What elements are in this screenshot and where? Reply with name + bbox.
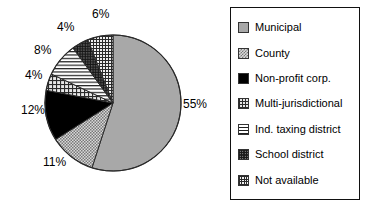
legend-item-county[interactable]: County (238, 40, 359, 65)
slice-label-non-profit-corp: 12% (21, 103, 45, 117)
legend-swatch-non-profit-corp (238, 73, 249, 84)
legend-swatch-not-available (238, 175, 249, 186)
legend-label-school-district: School district (255, 149, 323, 160)
legend-item-ind-taxing-district[interactable]: Ind. taxing district (238, 117, 359, 142)
pie-slices (45, 35, 181, 171)
pie-chart-area: 55% 11% 12% 4% 8% 4% 6% (0, 0, 228, 207)
legend-label-multi-jurisdictional: Multi-jurisdictional (255, 98, 342, 109)
legend-item-school-district[interactable]: School district (238, 142, 359, 167)
legend-label-not-available: Not available (255, 175, 319, 186)
legend-item-not-available[interactable]: Not available (238, 167, 359, 192)
slice-label-county: 11% (43, 155, 66, 169)
legend-swatch-county (238, 48, 249, 59)
slice-label-municipal: 55% (183, 97, 207, 111)
legend-box: Municipal County Non-profit corp. Multi-… (230, 7, 360, 200)
legend-item-multi-jurisdictional[interactable]: Multi-jurisdictional (238, 91, 359, 116)
legend-swatch-school-district (238, 149, 249, 160)
legend-item-non-profit-corp[interactable]: Non-profit corp. (238, 66, 359, 91)
legend-label-municipal: Municipal (255, 22, 301, 33)
slice-label-school-district: 4% (57, 20, 74, 34)
chart-root: 55% 11% 12% 4% 8% 4% 6% Municipal County… (0, 0, 367, 207)
legend-label-non-profit-corp: Non-profit corp. (255, 73, 331, 84)
legend-swatch-ind-taxing-district (238, 124, 249, 135)
legend-swatch-multi-jurisdictional (238, 98, 249, 109)
legend-swatch-municipal (238, 22, 249, 33)
slice-label-ind-taxing-district: 8% (34, 43, 51, 57)
slice-label-multi-jurisdictional: 4% (25, 68, 42, 82)
legend-label-county: County (255, 48, 290, 59)
slice-label-not-available: 6% (92, 7, 109, 21)
legend-item-municipal[interactable]: Municipal (238, 15, 359, 40)
legend-label-ind-taxing-district: Ind. taxing district (255, 124, 341, 135)
